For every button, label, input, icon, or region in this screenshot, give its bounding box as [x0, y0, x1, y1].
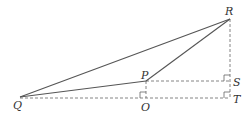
segment-QP [20, 81, 146, 97]
label-S: S [233, 76, 241, 89]
label-Q: Q [13, 99, 22, 112]
label-O: O [141, 101, 150, 114]
label-R: R [224, 5, 233, 18]
right-angle-mark-O [140, 92, 146, 98]
label-T: T [233, 93, 242, 106]
segment-PR [146, 19, 230, 81]
geometry-diagram: R P S T Q O [0, 0, 251, 120]
right-angle-mark-T [224, 92, 230, 98]
right-angle-mark-S [224, 75, 230, 81]
label-P: P [140, 69, 149, 82]
segment-QR [20, 19, 230, 97]
